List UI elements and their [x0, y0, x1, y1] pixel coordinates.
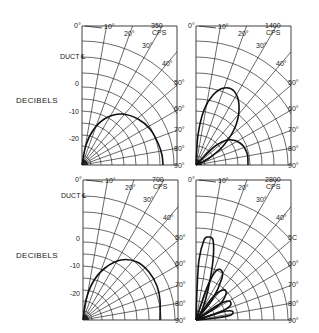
- angle-tick-label: 70°: [288, 281, 299, 288]
- angle-tick-label: 50°: [174, 79, 185, 86]
- angle-tick-label: 10°: [105, 177, 116, 184]
- polar-directivity-figure: 0°10°20°30°40°50°60°70°80°90°350CPS0-10-…: [0, 0, 319, 333]
- panels-layer: 0°10°20°30°40°50°60°70°80°90°350CPS0-10-…: [16, 0, 319, 324]
- angle-tick-label: 50°: [175, 234, 186, 241]
- polar-grid: [83, 25, 319, 320]
- angle-tick-label: 20°: [238, 30, 249, 37]
- db-tick-label: 0: [75, 80, 79, 87]
- directivity-curve: [82, 114, 163, 165]
- db-tick-label: -20: [69, 135, 79, 142]
- polar-grid: [196, 0, 319, 165]
- angle-tick-label: 80°: [174, 145, 185, 152]
- angle-tick-label: 0°: [74, 22, 81, 29]
- angle-tick-label: 30°: [142, 42, 153, 49]
- angle-tick-label: 80°: [288, 145, 299, 152]
- angle-tick-label: 30°: [143, 196, 154, 203]
- decibels-axis-label: DECIBELS: [16, 251, 58, 260]
- frequency-unit-label: CPS: [266, 29, 281, 36]
- db-tick-label: -10: [70, 262, 80, 269]
- angle-tick-label: 10°: [104, 23, 115, 30]
- angle-tick-label: 10°: [218, 177, 229, 184]
- angle-tick-label: 70°: [288, 126, 299, 133]
- decibels-axis-label: DECIBELS: [16, 96, 58, 105]
- frequency-label: 2800: [265, 176, 281, 183]
- angle-tick-label: 20°: [124, 30, 135, 37]
- angle-tick-label: 30°: [256, 196, 267, 203]
- polar-panel-bottom-right: 0°10°20°30°40°5C60°70°80°90°2800CPS: [188, 25, 319, 324]
- angle-tick-label: 40°: [276, 214, 287, 221]
- angle-tick-label: 70°: [174, 126, 185, 133]
- angle-tick-label: 40°: [162, 60, 173, 67]
- angle-tick-label: 0°: [75, 176, 82, 183]
- angle-tick-label: 40°: [276, 60, 287, 67]
- frequency-unit-label: CPS: [153, 183, 168, 190]
- angle-tick-label: 5C: [288, 234, 297, 241]
- angle-tick-label: 20°: [238, 184, 249, 191]
- angle-tick-label: 0°: [188, 22, 195, 29]
- duct-centerline-label: DUCT ℄: [60, 53, 86, 60]
- polar-grid: [196, 25, 319, 320]
- db-tick-label: -10: [69, 108, 79, 115]
- frequency-label: 1400: [265, 22, 281, 29]
- angle-tick-label: 90°: [174, 162, 185, 169]
- db-tick-label: 0: [76, 235, 80, 242]
- angle-tick-label: 10°: [218, 23, 229, 30]
- angle-tick-label: 60°: [175, 260, 186, 267]
- polar-panel-bottom-left: 0°10°20°30°40°50°60°70°80°90°700CPS0-10-…: [61, 25, 319, 324]
- angle-tick-label: 0°: [188, 176, 195, 183]
- angle-tick-label: 40°: [163, 214, 174, 221]
- angle-tick-label: 80°: [288, 300, 299, 307]
- angle-tick-label: 60°: [174, 105, 185, 112]
- frequency-unit-label: CPS: [152, 29, 167, 36]
- polar-panel-top-right: 0°10°20°30°40°50°60°70°80°90°1400CPS: [188, 0, 319, 169]
- angle-tick-label: 70°: [175, 281, 186, 288]
- angle-tick-label: 20°: [125, 184, 136, 191]
- angle-tick-label: 90°: [288, 162, 299, 169]
- angle-tick-label: 90°: [288, 317, 299, 324]
- frequency-label: 700: [152, 176, 164, 183]
- db-tick-label: -20: [70, 290, 80, 297]
- angle-tick-label: 60°: [288, 260, 299, 267]
- angle-tick-label: 30°: [256, 42, 267, 49]
- angle-tick-label: 50°: [288, 79, 299, 86]
- duct-centerline-label: DUCT ℄: [61, 192, 87, 199]
- frequency-unit-label: CPS: [266, 183, 281, 190]
- angle-tick-label: 90°: [175, 317, 186, 324]
- angle-tick-label: 60°: [288, 105, 299, 112]
- frequency-label: 350: [151, 22, 163, 29]
- angle-tick-label: 80°: [175, 300, 186, 307]
